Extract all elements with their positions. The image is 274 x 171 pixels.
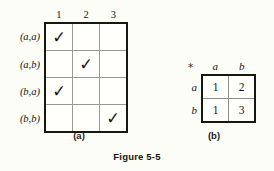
operation-row-label-b: b (179, 99, 202, 123)
panel-b-operation-table: ∗ a b a 1 2 b 1 3 (137, 0, 274, 171)
figure-caption: Figure 5-5 (0, 151, 274, 162)
relation-cell-ba-2 (73, 78, 100, 105)
relation-header-row: 1 2 3 (8, 6, 127, 23)
operation-column-header-a: a (202, 55, 229, 75)
table-row: a 1 2 (179, 75, 255, 99)
relation-cell-aa-1: ✓ (45, 23, 73, 51)
operation-cell-b-b: 3 (229, 99, 256, 123)
relation-cell-ba-1: ✓ (45, 78, 73, 105)
relation-column-header-2: 2 (73, 6, 100, 23)
operation-table-wrapper: ∗ a b a 1 2 b 1 3 (179, 55, 256, 123)
table-row: (a,b) ✓ (8, 51, 127, 78)
table-row: (b,a) ✓ (8, 78, 127, 105)
operation-cell-a-a: 1 (202, 75, 229, 99)
operation-header-row: ∗ a b (179, 55, 255, 75)
relation-cell-bb-3: ✓ (100, 105, 128, 133)
relation-row-label-aa: (a,a) (8, 23, 45, 51)
panel-a-sublabel: (a) (40, 130, 118, 141)
check-icon: ✓ (52, 29, 65, 46)
table-row: (a,a) ✓ (8, 23, 127, 51)
asterisk-icon: ∗ (179, 55, 202, 75)
panel-b-sublabel: (b) (179, 130, 249, 141)
operation-cell-b-a: 1 (202, 99, 229, 123)
relation-cell-aa-2 (73, 23, 100, 51)
relation-cell-ab-1 (45, 51, 73, 78)
panel-a-relation-table: 1 2 3 (a,a) ✓ (a,b) ✓ (b,a) ✓ (0, 0, 137, 171)
check-icon: ✓ (79, 56, 92, 73)
relation-table: 1 2 3 (a,a) ✓ (a,b) ✓ (b,a) ✓ (8, 6, 128, 133)
relation-cell-ab-3 (100, 51, 128, 78)
operation-cell-a-b: 2 (229, 75, 256, 99)
relation-cell-ba-3 (100, 78, 128, 105)
operation-table: ∗ a b a 1 2 b 1 3 (179, 55, 256, 123)
check-icon: ✓ (52, 83, 65, 100)
check-icon: ✓ (106, 110, 119, 127)
relation-column-header-3: 3 (100, 6, 128, 23)
relation-row-label-bb: (b,b) (8, 105, 45, 133)
relation-corner-cell (8, 6, 45, 23)
relation-cell-bb-2 (73, 105, 100, 133)
table-row: b 1 3 (179, 99, 255, 123)
relation-cell-bb-1 (45, 105, 73, 133)
relation-table-wrapper: 1 2 3 (a,a) ✓ (a,b) ✓ (b,a) ✓ (8, 6, 128, 133)
operation-column-header-b: b (229, 55, 256, 75)
relation-cell-ab-2: ✓ (73, 51, 100, 78)
table-row: (b,b) ✓ (8, 105, 127, 133)
relation-cell-aa-3 (100, 23, 128, 51)
relation-row-label-ba: (b,a) (8, 78, 45, 105)
relation-column-header-1: 1 (45, 6, 73, 23)
operation-row-label-a: a (179, 75, 202, 99)
relation-row-label-ab: (a,b) (8, 51, 45, 78)
